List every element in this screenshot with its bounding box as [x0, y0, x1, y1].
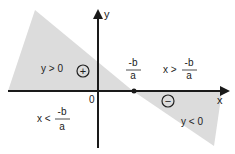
root-numerator: -b	[129, 57, 138, 68]
right-condition-denominator: a	[186, 70, 192, 81]
root-denominator: a	[130, 70, 136, 81]
positive-region	[8, 10, 133, 91]
right-condition-numerator: -b	[185, 57, 194, 68]
positive-sign: +	[80, 65, 86, 77]
negative-region	[133, 91, 222, 146]
origin-label: 0	[89, 94, 95, 105]
left-condition-prefix: x <	[37, 113, 51, 124]
negative-region-label: y < 0	[181, 116, 203, 127]
y-axis-label: y	[104, 8, 110, 20]
diagram-canvas: y x 0 y > 0 + y < 0 − -b a x > -b a x < …	[0, 0, 235, 154]
left-condition-denominator: a	[59, 121, 65, 132]
x-axis-label: x	[217, 94, 223, 106]
negative-sign: −	[165, 95, 171, 107]
sign-diagram: y x 0 y > 0 + y < 0 − -b a x > -b a x < …	[0, 0, 235, 154]
positive-region-label: y > 0	[41, 63, 63, 74]
left-condition-numerator: -b	[58, 106, 67, 117]
y-axis-arrow-icon	[93, 9, 103, 19]
right-condition-prefix: x >	[163, 64, 177, 75]
root-point	[132, 89, 137, 94]
